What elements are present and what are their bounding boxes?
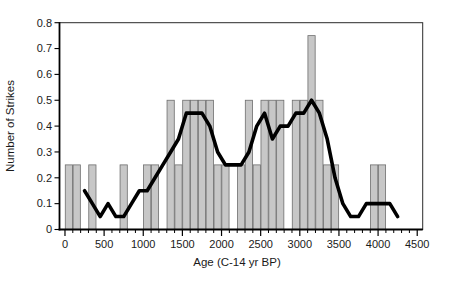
y-tick-label: 0.6	[37, 68, 52, 80]
histogram-bar	[245, 100, 252, 229]
y-tick-label: 0.4	[37, 120, 52, 132]
x-tick-label: 0	[62, 238, 68, 250]
histogram-bar	[73, 165, 80, 230]
x-tick-label: 3000	[288, 238, 312, 250]
chart-canvas: 00.10.20.30.40.50.60.70.8050010001500200…	[0, 0, 455, 282]
x-tick-label: 1000	[131, 238, 155, 250]
histogram-bar	[191, 100, 198, 229]
y-tick-label: 0.5	[37, 94, 52, 106]
x-tick-label: 2000	[209, 238, 233, 250]
x-tick-label: 500	[95, 238, 113, 250]
strike-frequency-chart: 00.10.20.30.40.50.60.70.8050010001500200…	[0, 0, 455, 282]
y-tick-label: 0	[46, 223, 52, 235]
histogram-bar	[277, 100, 284, 229]
histogram-bar	[300, 100, 307, 229]
histogram-bar	[214, 165, 221, 230]
histogram-bar	[269, 100, 276, 229]
histogram-bar	[144, 165, 151, 230]
x-tick-label: 4500	[405, 238, 429, 250]
y-tick-label: 0.2	[37, 172, 52, 184]
histogram-bar	[253, 165, 260, 230]
x-axis-label: Age (C-14 yr BP)	[193, 256, 281, 268]
histogram-bar	[222, 165, 229, 230]
x-tick-label: 2500	[248, 238, 272, 250]
histogram-bar	[371, 165, 378, 230]
x-tick-label: 3500	[327, 238, 351, 250]
y-axis-label: Number of Strikes	[4, 80, 16, 172]
x-tick-label: 4000	[366, 238, 390, 250]
histogram-bar	[237, 165, 244, 230]
histogram-bar	[65, 165, 72, 230]
histogram-bar	[308, 36, 315, 230]
y-tick-label: 0.3	[37, 146, 52, 158]
y-tick-label: 0.7	[37, 42, 52, 54]
histogram-bar	[378, 165, 385, 230]
y-tick-label: 0.1	[37, 197, 52, 209]
histogram-bar	[175, 165, 182, 230]
histogram-bar	[120, 165, 127, 230]
histogram-bar	[324, 165, 331, 230]
x-tick-label: 1500	[170, 238, 194, 250]
y-tick-label: 0.8	[37, 17, 52, 29]
histogram-bar	[167, 100, 174, 229]
